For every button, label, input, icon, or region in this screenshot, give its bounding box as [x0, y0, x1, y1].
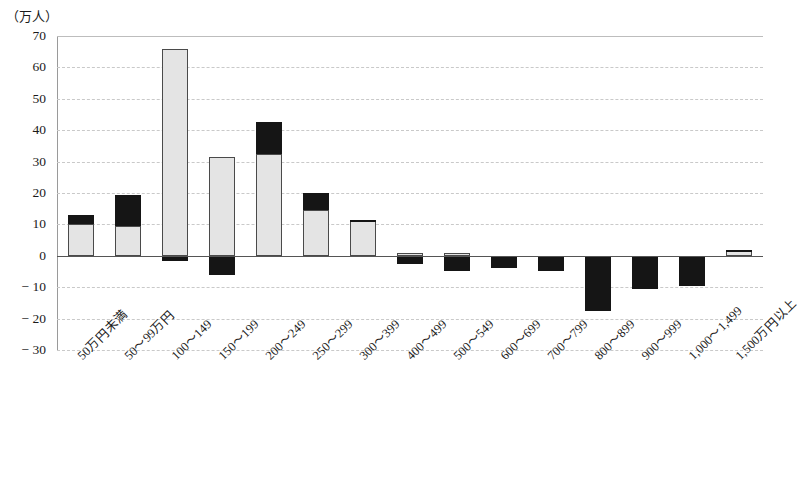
bar-segment-black: [444, 256, 470, 272]
x-axis-line: [57, 256, 763, 257]
y-axis-tick-labels: 706050403020100− 10− 20− 30: [0, 36, 52, 350]
plot-area: [57, 36, 763, 350]
bar-group[interactable]: [632, 36, 658, 350]
y-axis-tick-label: − 20: [22, 311, 47, 327]
y-axis-tick-label: 30: [33, 154, 47, 170]
bar-segment-black: [68, 215, 94, 224]
bar-segment-gray: [162, 49, 188, 256]
y-axis-unit-label: （万人）: [6, 6, 58, 25]
bar-segment-black: [350, 220, 376, 222]
bar-segment-black: [726, 250, 752, 252]
bar-group[interactable]: [209, 36, 235, 350]
y-axis-tick-label: 60: [33, 59, 47, 75]
bar-group[interactable]: [115, 36, 141, 350]
bar-segment-gray: [209, 157, 235, 256]
bar-group[interactable]: [303, 36, 329, 350]
bar-segment-gray: [350, 221, 376, 256]
bar-group[interactable]: [585, 36, 611, 350]
bar-group[interactable]: [679, 36, 705, 350]
bar-segment-gray: [115, 226, 141, 256]
bar-segment-black: [115, 195, 141, 226]
bar-group[interactable]: [491, 36, 517, 350]
bar-segment-black: [585, 256, 611, 311]
bar-group[interactable]: [397, 36, 423, 350]
bar-segment-gray: [68, 224, 94, 255]
y-axis-tick-label: 10: [33, 216, 47, 232]
y-axis-tick-label: 50: [33, 91, 47, 107]
bar-segment-black: [256, 122, 282, 153]
bar-segment-black: [209, 256, 235, 275]
x-axis-tick-labels: 50万円未満50〜99万円100〜149150〜199200〜249250〜29…: [57, 350, 763, 491]
y-axis-tick-label: 0: [39, 248, 46, 264]
y-axis-tick-label: − 10: [22, 279, 47, 295]
bar-segment-black: [397, 256, 423, 264]
bar-group[interactable]: [538, 36, 564, 350]
y-axis-tick-label: 70: [33, 28, 47, 44]
bar-segment-black: [679, 256, 705, 286]
y-axis-tick-label: − 30: [22, 342, 47, 358]
bar-segment-black: [303, 193, 329, 210]
y-axis-tick-label: 20: [33, 185, 47, 201]
bar-segment-black: [632, 256, 658, 289]
bar-group[interactable]: [68, 36, 94, 350]
plot-inner: [57, 36, 763, 350]
bar-segment-gray: [303, 210, 329, 256]
bar-group[interactable]: [256, 36, 282, 350]
y-axis-tick-label: 40: [33, 122, 47, 138]
bar-group[interactable]: [444, 36, 470, 350]
bar-group[interactable]: [162, 36, 188, 350]
bar-group[interactable]: [350, 36, 376, 350]
bar-segment-gray: [256, 154, 282, 256]
bar-segment-black: [491, 256, 517, 269]
bar-segment-black: [538, 256, 564, 272]
